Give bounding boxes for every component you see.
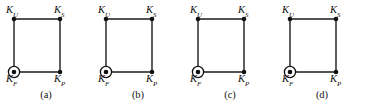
- panel-caption-b: (b): [92, 89, 184, 100]
- panel-caption-c: (c): [184, 89, 276, 100]
- node-label-ks: KS: [330, 5, 341, 16]
- node-label-kp: KP: [54, 74, 66, 85]
- node-label-kf: KF: [190, 74, 202, 85]
- panel-a: KU KS KF KP (a): [0, 0, 92, 111]
- node-label-kf: KF: [6, 74, 18, 85]
- node-label-ks: KS: [146, 5, 157, 16]
- node-label-kf: KF: [98, 74, 110, 85]
- node-label-kp: KP: [330, 74, 342, 85]
- panel-caption-d: (d): [276, 89, 368, 100]
- panel-d: KU KS KF KP (d): [276, 0, 368, 111]
- node-label-ku: KU: [190, 5, 202, 16]
- node-label-ks: KS: [238, 5, 249, 16]
- node-label-ku: KU: [282, 5, 294, 16]
- node-label-ks: KS: [54, 5, 65, 16]
- panel-caption-a: (a): [0, 89, 92, 100]
- node-label-ku: KU: [98, 5, 110, 16]
- figure-panel-series: KU KS KF KP (a) KU KS KF KP (b): [0, 0, 368, 111]
- node-label-kf: KF: [282, 74, 294, 85]
- node-label-kp: KP: [238, 74, 250, 85]
- node-label-ku: KU: [6, 5, 18, 16]
- panel-b: KU KS KF KP (b): [92, 0, 184, 111]
- node-label-kp: KP: [146, 74, 158, 85]
- panel-c: KU KS KF KP (c): [184, 0, 276, 111]
